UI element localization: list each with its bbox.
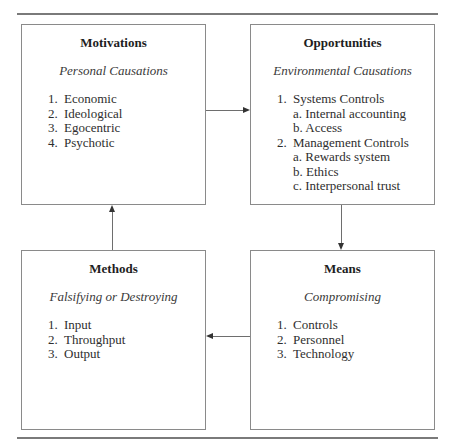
- item-list: 1.Input 2.Throughput 3.Output: [48, 318, 201, 362]
- list-item: 4.Psychotic: [48, 136, 201, 151]
- list-item: 3.Output: [48, 347, 201, 362]
- list-item: 2.Personnel: [277, 333, 430, 348]
- item-number: 1.: [277, 92, 293, 107]
- item-list: 1.Systems Controls a. Internal accountin…: [277, 92, 430, 194]
- list-item: 3.Egocentric: [48, 121, 201, 136]
- item-number: 2.: [277, 333, 293, 348]
- item-label: Output: [64, 346, 100, 361]
- item-number: 3.: [48, 347, 64, 362]
- item-list: 1.Economic 2.Ideological 3.Egocentric 4.…: [48, 92, 201, 150]
- box-subtitle: Falsifying or Destroying: [22, 289, 205, 305]
- box-subtitle: Environmental Causations: [251, 63, 434, 79]
- item-number: 3.: [277, 347, 293, 362]
- list-item: 2.Throughput: [48, 333, 201, 348]
- item-number: 2.: [48, 333, 64, 348]
- item-number: 4.: [48, 136, 64, 151]
- item-number: 2.: [48, 107, 64, 122]
- list-item: 2.Ideological: [48, 107, 201, 122]
- item-label: Personnel: [293, 332, 344, 347]
- list-item: 1.Economic: [48, 92, 201, 107]
- item-label: Throughput: [64, 332, 125, 347]
- arrow-down-icon: [338, 243, 344, 250]
- item-number: 1.: [48, 92, 64, 107]
- box-subtitle: Personal Causations: [22, 63, 205, 79]
- arrow-right-icon: [243, 107, 250, 113]
- box-title: Methods: [22, 261, 205, 277]
- motivations-box: Motivations Personal Causations 1.Econom…: [21, 24, 206, 205]
- item-label: Controls: [293, 317, 338, 332]
- opportunities-box: Opportunities Environmental Causations 1…: [250, 24, 435, 205]
- means-box: Means Compromising 1.Controls 2.Personne…: [250, 250, 435, 430]
- top-rule: [17, 13, 438, 15]
- box-title: Motivations: [22, 35, 205, 51]
- item-label: Technology: [293, 346, 354, 361]
- sub-list-item: b. Access: [277, 121, 430, 136]
- box-title: Means: [251, 261, 434, 277]
- bottom-rule: [17, 437, 438, 439]
- arrow-left-icon: [206, 333, 213, 339]
- item-number: 1.: [48, 318, 64, 333]
- item-label: Input: [64, 317, 91, 332]
- item-label: Economic: [64, 91, 117, 106]
- item-label: Egocentric: [64, 120, 120, 135]
- sub-list-item: c. Interpersonal trust: [277, 179, 430, 194]
- list-item: 3.Technology: [277, 347, 430, 362]
- item-label: Ideological: [64, 106, 122, 121]
- connector-methods-to-motivations: [112, 211, 113, 250]
- arrow-up-icon: [109, 205, 115, 212]
- connector-motivations-to-opportunities: [206, 110, 244, 111]
- item-label: Management Controls: [293, 135, 409, 150]
- item-list: 1.Controls 2.Personnel 3.Technology: [277, 318, 430, 362]
- list-item: 2.Management Controls: [277, 136, 430, 151]
- connector-means-to-methods: [212, 336, 250, 337]
- item-number: 2.: [277, 136, 293, 151]
- list-item: 1.Input: [48, 318, 201, 333]
- box-title: Opportunities: [251, 35, 434, 51]
- list-item: 1.Systems Controls: [277, 92, 430, 107]
- item-number: 3.: [48, 121, 64, 136]
- box-subtitle: Compromising: [251, 289, 434, 305]
- item-number: 1.: [277, 318, 293, 333]
- item-label: Systems Controls: [293, 91, 384, 106]
- sub-list-item: a. Rewards system: [277, 150, 430, 165]
- item-label: Psychotic: [64, 135, 115, 150]
- sub-list-item: b. Ethics: [277, 165, 430, 180]
- methods-box: Methods Falsifying or Destroying 1.Input…: [21, 250, 206, 430]
- list-item: 1.Controls: [277, 318, 430, 333]
- sub-list-item: a. Internal accounting: [277, 107, 430, 122]
- connector-opportunities-to-means: [341, 205, 342, 244]
